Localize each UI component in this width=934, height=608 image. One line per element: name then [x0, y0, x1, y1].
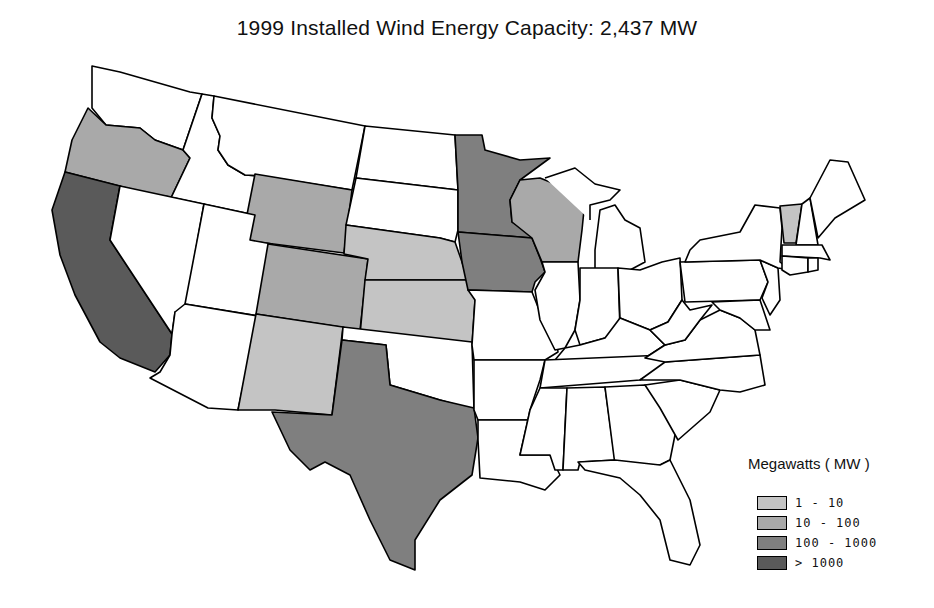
state-tennessee — [540, 355, 665, 388]
legend-swatch — [757, 496, 787, 510]
legend-swatch — [757, 536, 787, 550]
legend-item-10-100: 10 - 100 — [757, 513, 930, 533]
legend: Megawatts ( MW ) 1 - 10 10 - 100 100 - 1… — [740, 455, 930, 573]
legend-label: > 1000 — [795, 556, 844, 570]
legend-item-over-1000: > 1000 — [757, 553, 930, 573]
legend-item-100-1000: 100 - 1000 — [757, 533, 930, 553]
legend-swatch — [757, 556, 787, 570]
legend-item-1-10: 1 - 10 — [757, 493, 930, 513]
state-maine — [810, 160, 865, 238]
legend-label: 10 - 100 — [795, 516, 861, 530]
legend-label: 100 - 1000 — [795, 536, 877, 550]
legend-swatch — [757, 516, 787, 530]
state-new-york — [685, 205, 790, 270]
state-florida — [578, 460, 700, 565]
state-new-mexico — [238, 314, 343, 415]
legend-label: 1 - 10 — [795, 496, 844, 510]
state-pennsylvania — [680, 260, 768, 302]
state-rhode-island — [808, 258, 818, 272]
state-iowa — [458, 232, 545, 292]
state-connecticut — [782, 256, 808, 275]
legend-title: Megawatts ( MW ) — [748, 455, 930, 472]
